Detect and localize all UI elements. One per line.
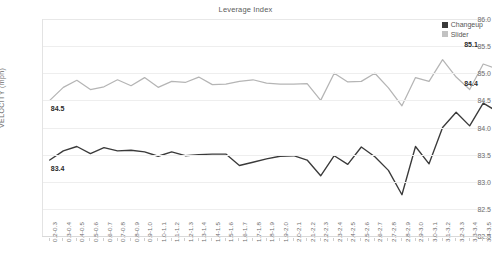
x-tick-label: 2.1-2.2 <box>309 222 316 242</box>
x-tick-label: 0.6-0.7 <box>106 222 113 242</box>
gridline <box>43 155 490 156</box>
gridline <box>43 128 490 129</box>
x-tick-label: 3.4-3.5 <box>485 222 492 242</box>
series-line-slider <box>50 60 492 106</box>
x-tick <box>211 238 212 241</box>
y-axis-title: VELOCITY (mph) <box>0 68 5 128</box>
x-tick-label: 2.7-2.8 <box>390 222 397 242</box>
gridline <box>43 46 490 47</box>
gridline <box>43 209 490 210</box>
plot-area <box>42 19 490 236</box>
x-tick <box>415 238 416 241</box>
x-tick <box>293 238 294 241</box>
x-tick-label: 3.2-3.3 <box>458 222 465 242</box>
x-tick-label: 2.3-2.4 <box>336 222 343 242</box>
x-tick-label: 2.8-2.9 <box>404 222 411 242</box>
y-tick-label: 83.5 <box>453 151 491 158</box>
x-tick <box>117 238 118 241</box>
x-tick <box>455 238 456 241</box>
x-tick <box>428 238 429 241</box>
x-tick-label: 3.0-3.1 <box>431 222 438 242</box>
x-tick-label: 0.7-0.8 <box>119 222 126 242</box>
x-tick <box>144 238 145 241</box>
x-tick <box>442 238 443 241</box>
x-tick <box>89 238 90 241</box>
x-tick <box>387 238 388 241</box>
y-tick-label: 83.0 <box>453 178 491 185</box>
x-tick <box>482 238 483 241</box>
x-tick <box>103 238 104 241</box>
x-tick <box>266 238 267 241</box>
x-tick <box>225 238 226 241</box>
x-tick-label: 1.8-1.9 <box>268 222 275 242</box>
x-tick-label: 0.9-1.0 <box>146 222 153 242</box>
data-label: 85.1 <box>464 41 478 48</box>
gridline <box>43 182 490 183</box>
x-tick <box>347 238 348 241</box>
x-tick <box>306 238 307 241</box>
y-tick-label: 85.0 <box>453 70 491 77</box>
x-tick <box>184 238 185 241</box>
x-tick <box>469 238 470 241</box>
x-tick <box>171 238 172 241</box>
x-tick <box>252 238 253 241</box>
gridline <box>43 19 490 20</box>
x-tick <box>279 238 280 241</box>
x-tick-label: 1.4-1.5 <box>214 222 221 242</box>
x-tick-label: 3.1-3.2 <box>444 222 451 242</box>
x-tick-label: 2.4-2.5 <box>349 222 356 242</box>
x-tick <box>320 238 321 241</box>
legend-label-slider: Slider <box>451 30 469 40</box>
gridline <box>43 73 490 74</box>
legend-item-changeup[interactable]: Changeup <box>442 20 483 30</box>
x-tick-label: 1.0-1.1 <box>160 222 167 242</box>
data-label: 84.5 <box>51 105 65 112</box>
x-tick-label: 2.5-2.6 <box>363 222 370 242</box>
x-tick <box>333 238 334 241</box>
x-tick <box>76 238 77 241</box>
data-label: 84.4 <box>464 80 478 87</box>
y-tick-label: 82.5 <box>453 205 491 212</box>
x-tick-label: 0.3-0.4 <box>65 222 72 242</box>
x-tick-label: 1.3-1.4 <box>200 222 207 242</box>
gridline <box>43 100 490 101</box>
legend-swatch-changeup <box>442 22 448 28</box>
legend-swatch-slider <box>442 31 448 37</box>
x-tick-label: 1.2-1.3 <box>187 222 194 242</box>
chart-legend: Changeup Slider <box>442 20 483 39</box>
legend-item-slider[interactable]: Slider <box>442 30 483 40</box>
x-tick-label: 1.7-1.8 <box>255 222 262 242</box>
x-tick-label: 0.2-0.3 <box>51 222 58 242</box>
x-tick-label: 1.5-1.6 <box>227 222 234 242</box>
x-tick-label: 1.6-1.7 <box>241 222 248 242</box>
y-tick-label: 84.5 <box>453 97 491 104</box>
x-tick <box>198 238 199 241</box>
x-tick-label: 0.4-0.5 <box>78 222 85 242</box>
x-tick <box>374 238 375 241</box>
x-tick <box>238 238 239 241</box>
x-tick <box>360 238 361 241</box>
x-tick <box>157 238 158 241</box>
y-tick-label: 84.0 <box>453 124 491 131</box>
legend-label-changeup: Changeup <box>451 20 483 30</box>
x-tick-label: 0.5-0.6 <box>92 222 99 242</box>
x-tick-label: 1.9-2.0 <box>282 222 289 242</box>
x-tick-label: 2.6-2.7 <box>376 222 383 242</box>
x-tick-label: 2.9-3.0 <box>417 222 424 242</box>
x-tick-label: 0.8-0.9 <box>133 222 140 242</box>
x-tick-label: 1.1-1.2 <box>173 222 180 242</box>
x-tick-label: 2.0-2.1 <box>295 222 302 242</box>
x-tick-label: 3.3-3.4 <box>471 222 478 242</box>
data-label: 83.4 <box>51 165 65 172</box>
x-tick <box>401 238 402 241</box>
x-tick <box>49 238 50 241</box>
chart-title: Leverage Index <box>0 5 491 14</box>
x-tick <box>62 238 63 241</box>
x-tick <box>130 238 131 241</box>
x-tick-label: 2.2-2.3 <box>322 222 329 242</box>
